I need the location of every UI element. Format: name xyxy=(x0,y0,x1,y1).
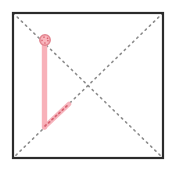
geometry-figure-svg xyxy=(0,0,175,173)
figure-canvas xyxy=(0,0,175,173)
